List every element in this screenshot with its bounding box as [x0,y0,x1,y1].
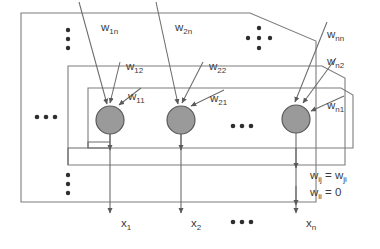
formula-symmetry: wij = wji [310,170,347,182]
bottom-ellipsis-dot-1 [231,220,236,225]
neuron-feedback-returns [68,142,110,165]
weight-label-w2n: w2n [175,22,192,34]
hopfield-network-diagram [0,0,380,249]
neuron-bodies [96,105,310,134]
output-label-x2: x2 [191,218,201,230]
weight-label-w22: w22 [209,61,226,73]
cross-ellipsis-dot-bottom [257,46,261,50]
weight-label-wn2: wn2 [327,56,344,68]
lower-vertical-ellipsis-dot-2 [66,182,70,186]
figure-canvas: w1n w2n wnn w12 w22 wn2 w11 w21 wn1 x1 x… [0,0,380,249]
neuron-2[interactable] [167,106,195,134]
weight-label-w12: w12 [126,61,143,73]
output-base-xn: x [306,217,312,229]
w22-arrow [182,62,203,103]
formula-symmetry-eq: = [322,169,335,181]
middle-ellipsis-dot-3 [249,124,254,129]
left-ellipsis-dot-1 [35,115,40,120]
output-tap-arrowheads [110,114,296,205]
output-sub-x1: 1 [127,223,131,232]
weight-sub-w22: 22 [217,66,226,75]
output-label-xn: xn [306,218,316,230]
outer-feedback-ring [21,13,316,202]
bottom-ellipsis-dot-3 [249,220,254,225]
lower-vertical-ellipsis-dot-1 [66,173,70,177]
upper-vertical-ellipsis-dot-2 [66,37,70,41]
formula-self-eq: = [322,186,335,198]
upper-vertical-ellipsis-dot-1 [66,28,70,32]
neuron-1-return-path [88,142,110,148]
neuron-output-trunks [110,133,296,213]
weight-sub-wnn: nn [335,34,344,43]
weight-sub-w21: 21 [218,98,227,107]
neuron-1-outer-return-path [68,148,110,165]
neuron-3[interactable] [282,105,310,133]
cross-ellipsis-dot-center [257,36,261,40]
bottom-ellipsis-dot-2 [240,220,245,225]
left-ellipsis-dot-2 [44,115,49,120]
middle-ellipsis-dot-2 [240,124,245,129]
weight-sub-w12: 12 [134,66,143,75]
middle-ellipsis-dot-1 [231,124,236,129]
formula-self-rhs: 0 [335,186,341,198]
upper-vertical-ellipsis-dot-3 [66,46,70,50]
lower-vertical-ellipsis-dot-3 [66,191,70,195]
output-base-x1: x [121,217,127,229]
w1n-arrow [79,2,107,104]
output-sub-x2: 2 [197,223,201,232]
formula-symmetry-rhs-sub: ji [343,175,347,184]
weight-sub-wn1: n1 [335,105,344,114]
w2n-arrow [156,2,178,104]
cross-ellipsis-dot-left [246,36,250,40]
cross-ellipsis-dot-top [257,26,261,30]
weight-label-wnn: wnn [327,29,344,41]
neuron-1[interactable] [96,106,124,134]
formula-no-self-connection: wii = 0 [310,187,341,199]
weight-label-w11: w11 [128,91,145,103]
formula-symmetry-lhs-sub: ij [318,175,322,184]
output-base-x2: x [191,217,197,229]
weight-label-w21: w21 [210,93,227,105]
ellipsis-dots [35,26,272,225]
cross-ellipsis-dot-right [268,36,272,40]
output-sub-xn: n [312,223,316,232]
weight-label-wn1: wn1 [327,100,344,112]
weight-sub-w1n: 1n [109,27,118,36]
left-ellipsis-dot-3 [53,115,58,120]
weight-label-w1n: w1n [101,22,118,34]
formula-self-lhs-sub: ii [318,192,322,201]
weight-sub-w11: 11 [136,96,144,105]
output-label-x1: x1 [121,218,131,230]
w12-arrow [110,62,120,103]
weight-sub-wn2: n2 [335,61,344,70]
weight-sub-w2n: 2n [183,27,192,36]
